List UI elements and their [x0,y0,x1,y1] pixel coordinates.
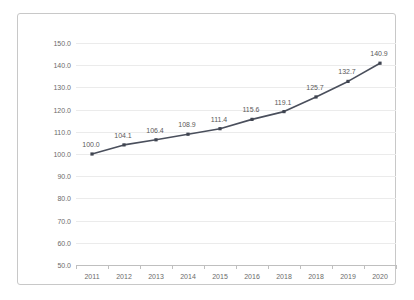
y-axis-tick-label: 70.0 [57,217,71,224]
data-point-label: 106.4 [146,127,164,135]
data-point-marker [282,110,285,113]
y-axis-tick-label: 140.0 [53,62,71,69]
data-point-label: 100.0 [82,141,100,149]
data-point-marker [250,118,253,121]
y-axis-tick-label: 80.0 [57,195,71,202]
x-axis-tick [204,265,205,269]
y-axis-tick-label: 110.0 [54,128,71,135]
x-axis-tick [396,265,397,269]
data-point-marker [154,138,157,141]
x-axis-tick [108,265,109,269]
y-axis-tick-label: 50.0 [57,262,71,269]
x-axis-tick [140,265,141,269]
line-chart-figure: 150.0140.0130.0120.0110.0100.090.080.070… [0,0,414,300]
data-point-label: 104.1 [114,132,132,140]
x-axis-tick [268,265,269,269]
data-point-label: 108.9 [178,121,196,129]
x-axis-tick-label: 2020 [372,273,388,281]
data-point-marker [90,152,93,155]
x-axis-tick-label: 2013 [148,273,164,281]
x-axis-tick [172,265,173,269]
data-point-label: 115.6 [243,106,260,114]
x-axis-tick-label: 2018 [276,273,292,281]
plot-area: 150.0140.0130.0120.0110.0100.090.080.070… [76,43,396,265]
data-point-label: 132.7 [338,68,356,76]
y-axis-tick-label: 60.0 [57,239,71,246]
data-point-marker [186,133,189,136]
data-point-label: 111.4 [211,116,227,124]
data-point-label: 119.1 [275,99,292,107]
chart-frame: 150.0140.0130.0120.0110.0100.090.080.070… [17,13,396,285]
x-axis-tick [76,265,77,269]
x-axis-tick [236,265,237,269]
data-point-marker [122,143,125,146]
y-axis-tick-label: 90.0 [57,173,71,180]
chart-title [0,0,414,4]
x-axis-tick [332,265,333,269]
x-axis-tick [364,265,365,269]
y-axis-tick-label: 130.0 [53,84,71,91]
y-axis-tick-label: 150.0 [53,40,71,47]
x-axis-tick-label: 2011 [84,273,99,281]
x-axis-tick-label: 2012 [116,273,132,281]
x-axis-tick-label: 2014 [180,273,196,281]
y-axis-tick-label: 100.0 [53,151,71,158]
data-point-label: 125.7 [306,84,324,92]
x-axis-tick-label: 2016 [244,273,260,281]
series-polyline [92,63,380,154]
data-point-marker [218,127,221,130]
x-axis-tick-label: 2019 [340,273,356,281]
data-point-marker [378,62,381,65]
x-axis-tick-label: 2015 [212,273,228,281]
data-point-label: 140.9 [370,50,388,58]
x-axis-tick [300,265,301,269]
data-point-marker [346,80,349,83]
y-axis-tick-label: 120.0 [53,106,71,113]
x-axis-tick-label: 2018 [308,273,324,281]
data-point-marker [314,95,317,98]
